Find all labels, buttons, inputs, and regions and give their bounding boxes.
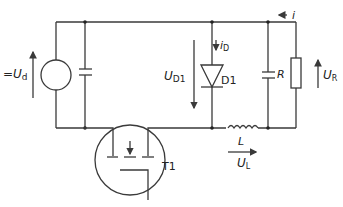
diode-current-sub: D: [223, 44, 229, 53]
t1-gate: [120, 170, 148, 200]
resistor-voltage-main: U: [323, 68, 332, 82]
junction-dot: [266, 126, 270, 130]
source-voltage-label: =Ud: [3, 67, 28, 82]
load-current-label: i: [292, 9, 295, 22]
diode-voltage-sub: D1: [173, 74, 186, 84]
diode-voltage-label: UD1: [164, 69, 185, 84]
resistor-label: R: [277, 68, 285, 81]
inductor-voltage-sub: L: [246, 162, 251, 171]
junction-dot: [83, 20, 87, 24]
junction-dot: [210, 20, 214, 24]
resistor-voltage-sub: R: [332, 74, 338, 83]
resistor-r-symbol: [291, 58, 301, 88]
inductor-voltage-main: U: [237, 156, 246, 170]
diode-d1-symbol: [201, 65, 223, 87]
junction-dot: [210, 126, 214, 130]
source-voltage-main: U: [13, 67, 22, 81]
diode-current-label: iD: [220, 39, 229, 53]
resistor-voltage-label: UR: [323, 68, 338, 83]
t1-label: T1: [161, 160, 176, 173]
t1-drain-lead: [148, 128, 296, 156]
bottom-left-wire: [56, 128, 113, 156]
diode-label: D1: [221, 74, 236, 87]
junction-dot: [266, 20, 270, 24]
dc-source-symbol: [41, 60, 71, 90]
diode-voltage-main: U: [164, 69, 173, 83]
source-voltage-prefix: =: [3, 67, 13, 81]
inductor-voltage-label: UL: [237, 156, 251, 171]
source-voltage-sub: d: [22, 72, 28, 82]
inductor-label: L: [238, 135, 244, 148]
circuit-diagram: T1 L R =Ud UD1 iD D1 i UR UL: [0, 0, 343, 207]
transistor-t1-symbol: [95, 125, 165, 195]
